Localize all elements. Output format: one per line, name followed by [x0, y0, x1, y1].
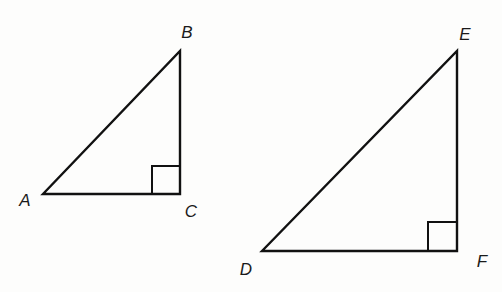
vertex-label-e: E [459, 26, 470, 43]
vertex-label-d: D [240, 261, 252, 278]
diagram-canvas: A B C D E F [0, 0, 502, 292]
vertex-label-a: A [19, 192, 30, 209]
triangle-def [262, 51, 457, 251]
triangle-abc-outline [43, 51, 180, 194]
right-angle-marker-f [428, 222, 457, 251]
triangles-figure [0, 0, 502, 292]
vertex-label-f: F [477, 253, 487, 270]
right-angle-marker-c [152, 166, 180, 194]
triangle-abc [43, 51, 180, 194]
vertex-label-c: C [185, 203, 197, 220]
vertex-label-b: B [181, 24, 192, 41]
